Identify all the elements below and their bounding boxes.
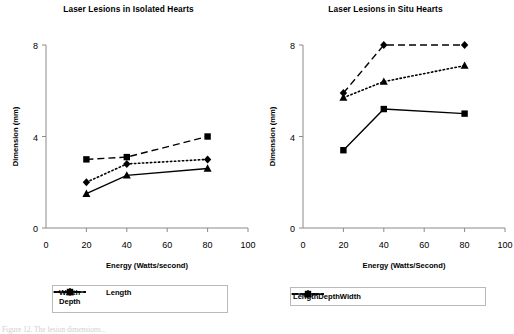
data-point-depth	[82, 190, 90, 197]
legend-label: Width	[340, 292, 361, 301]
x-tick-label: 20	[338, 240, 348, 250]
y-axis-title: Dimension (mm)	[268, 106, 277, 166]
chart-svg-isolated: 048020406080100Energy (Watts/second)Dime…	[0, 0, 257, 290]
x-axis-title: Energy (Watts/Second)	[363, 261, 446, 270]
series-line-depth	[343, 109, 464, 150]
y-tick-label: 8	[33, 41, 38, 51]
data-point-width	[204, 155, 211, 163]
data-point-depth	[204, 164, 212, 171]
legend-swatch-depth	[53, 286, 87, 298]
y-tick-label: 0	[33, 224, 38, 234]
y-tick-label: 4	[290, 133, 295, 143]
legend-entry-width: Width	[340, 292, 361, 301]
x-tick-label: 20	[81, 240, 91, 250]
legend-entry-depth: Depth	[59, 297, 81, 306]
x-tick-label: 100	[497, 240, 512, 250]
x-tick-label: 60	[419, 240, 429, 250]
data-point-depth	[381, 106, 387, 112]
data-point-length	[461, 41, 468, 49]
x-tick-label: 60	[162, 240, 172, 250]
legend-label: Length	[106, 288, 131, 297]
y-axis-title: Dimension (mm)	[11, 106, 20, 166]
x-tick-label: 80	[460, 240, 470, 250]
chart-svg-situ: 048020406080100Energy (Watts/Second)Dime…	[257, 0, 514, 290]
data-point-width	[123, 160, 130, 168]
data-point-width	[380, 77, 388, 84]
data-point-length	[83, 156, 89, 162]
data-point-width	[339, 93, 347, 100]
x-tick-label: 0	[43, 240, 48, 250]
chart-panel-isolated: Laser Lesions in Isolated Hearts 0480204…	[0, 0, 257, 331]
x-tick-label: 40	[122, 240, 132, 250]
figure-caption: Figure 12. The lesion dimensions...	[2, 325, 512, 334]
legend-swatch-width	[291, 288, 325, 300]
x-axis-title: Energy (Watts/second)	[106, 261, 188, 270]
chart-legend-isolated: WidthLengthDepth	[52, 285, 228, 313]
y-tick-label: 4	[33, 133, 38, 143]
data-point-depth	[340, 147, 346, 153]
x-tick-label: 80	[203, 240, 213, 250]
chart-legend-situ: LengthDepthWidth	[290, 287, 486, 306]
y-tick-label: 8	[290, 41, 295, 51]
data-point-length	[204, 133, 210, 139]
legend-label: Depth	[59, 297, 81, 306]
data-point-depth	[461, 110, 467, 116]
x-tick-label: 100	[240, 240, 255, 250]
x-tick-label: 40	[379, 240, 389, 250]
series-line-width	[86, 159, 207, 182]
series-line-depth	[86, 169, 207, 194]
series-line-width	[343, 66, 464, 98]
data-point-length	[124, 154, 130, 160]
series-line-length	[86, 137, 207, 160]
legend-row: Depth	[59, 297, 227, 306]
y-tick-label: 0	[290, 224, 295, 234]
chart-panel-situ: Laser Lesions in Situ Hearts 04802040608…	[257, 0, 514, 331]
legend-entry-length: Length	[106, 288, 131, 297]
data-point-width	[83, 178, 90, 186]
x-tick-label: 0	[300, 240, 305, 250]
data-point-width	[461, 61, 469, 68]
